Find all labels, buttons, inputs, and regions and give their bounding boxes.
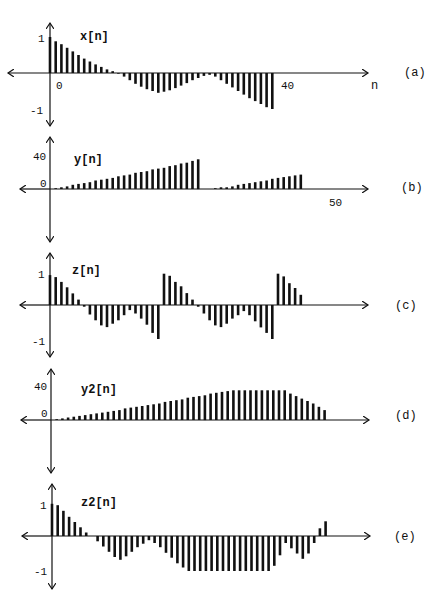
panel-a: 1 -1 0 40 x[n] n (a) <box>8 23 426 126</box>
stem <box>117 176 120 189</box>
stem <box>125 536 128 556</box>
stem <box>227 536 230 571</box>
stem <box>272 390 275 420</box>
stem <box>129 73 132 80</box>
stem <box>51 504 54 536</box>
stem <box>180 286 183 305</box>
stem <box>129 305 132 310</box>
panel-label: (d) <box>395 409 417 423</box>
stem <box>60 44 63 73</box>
stem <box>191 73 194 80</box>
stem <box>89 62 92 74</box>
stem <box>231 305 234 319</box>
stem <box>129 175 132 189</box>
stem <box>168 73 171 90</box>
stem <box>186 73 189 83</box>
stem <box>158 404 161 421</box>
stem <box>106 305 109 327</box>
stem <box>163 168 166 189</box>
x-tick-label: 0 <box>56 80 63 92</box>
stem <box>205 536 208 571</box>
stem <box>267 536 270 571</box>
stem <box>260 305 263 327</box>
stem <box>66 48 69 73</box>
stem <box>271 179 274 189</box>
stem <box>209 394 212 420</box>
stem <box>265 73 268 107</box>
stem <box>174 73 177 88</box>
stem <box>312 404 315 421</box>
stem <box>94 181 97 190</box>
stem <box>307 536 310 554</box>
stem <box>54 41 57 73</box>
stem <box>231 73 234 87</box>
stem <box>153 536 156 543</box>
stem <box>254 182 257 189</box>
stem <box>175 400 178 420</box>
stem <box>90 414 93 420</box>
stem <box>168 166 171 189</box>
stem <box>73 417 76 420</box>
signal-label: y[n] <box>74 153 103 167</box>
stem <box>249 390 252 420</box>
stem <box>49 275 52 305</box>
stem <box>222 536 225 571</box>
stem <box>163 73 166 92</box>
stem <box>83 183 86 189</box>
stem <box>147 405 150 420</box>
stem <box>254 305 257 321</box>
stem <box>100 67 103 73</box>
stem <box>260 73 263 104</box>
stem <box>255 390 258 420</box>
stem <box>271 305 274 339</box>
stem <box>151 169 154 189</box>
stem <box>61 418 64 420</box>
stem <box>134 73 137 84</box>
stem <box>84 415 87 420</box>
stem <box>220 73 223 80</box>
stem <box>233 536 236 571</box>
stem <box>118 410 121 420</box>
stem <box>157 305 160 339</box>
stem <box>182 536 185 568</box>
stem <box>191 161 194 189</box>
stem <box>123 73 126 77</box>
stem <box>151 305 154 333</box>
stem <box>239 536 242 571</box>
stem <box>248 183 251 189</box>
stem <box>151 73 154 91</box>
stem <box>157 169 160 189</box>
stem <box>216 536 219 571</box>
panel-label: (e) <box>394 530 416 544</box>
y-tick-label: 1 <box>40 500 47 512</box>
stem <box>101 413 104 420</box>
stem <box>186 293 189 305</box>
stem <box>68 517 71 536</box>
stem <box>54 277 57 305</box>
stem <box>265 305 268 333</box>
signal-label: z2[n] <box>81 496 117 510</box>
stem <box>220 305 223 327</box>
stem-series <box>51 504 327 571</box>
stem <box>83 59 86 73</box>
stem <box>180 73 183 86</box>
stem <box>243 73 246 95</box>
stem <box>62 511 65 536</box>
stem <box>301 399 304 420</box>
stem <box>66 186 69 189</box>
panel-label: (b) <box>401 181 423 195</box>
stem <box>108 536 111 552</box>
y-tick-label: 1 <box>38 269 45 281</box>
stem-series <box>49 274 302 339</box>
stem <box>248 73 251 98</box>
stem <box>134 305 137 314</box>
stem <box>168 276 171 305</box>
stem <box>124 408 127 420</box>
y-tick-label: 0 <box>40 178 47 190</box>
stem <box>250 536 253 571</box>
signal-label: x[n] <box>80 30 109 44</box>
stem <box>220 187 223 189</box>
stem <box>96 536 99 541</box>
signal-figure: 1 -1 0 40 x[n] n (a) 40 0 50 y[n] (b) 1 … <box>0 0 439 607</box>
stem <box>208 305 211 320</box>
